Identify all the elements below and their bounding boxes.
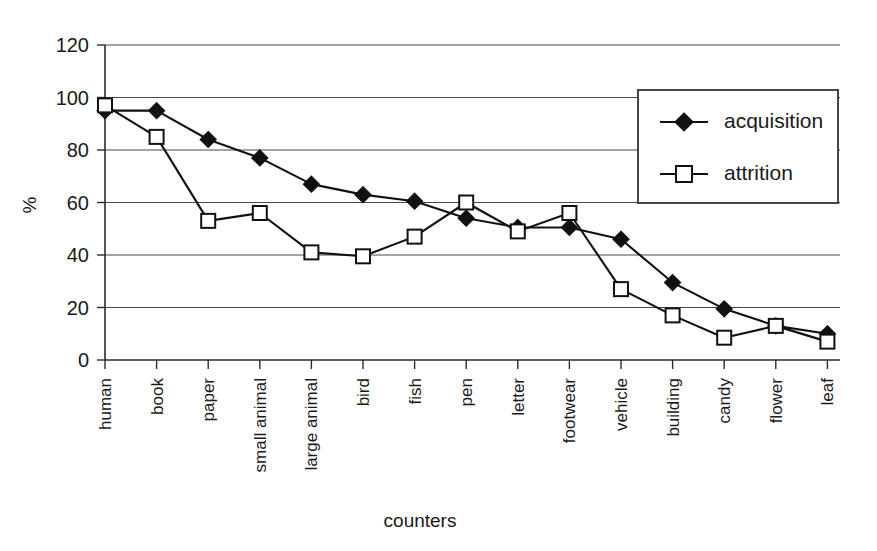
y-tick-label: 100 — [56, 87, 89, 109]
legend-box — [638, 90, 838, 203]
data-point-marker-square — [201, 214, 215, 228]
x-category-label: human — [96, 378, 115, 430]
x-category-label: leaf — [818, 378, 837, 406]
y-tick-label: 60 — [67, 192, 89, 214]
y-tick-label: 40 — [67, 244, 89, 266]
data-point-marker-diamond — [355, 187, 371, 203]
x-category-label: book — [148, 378, 167, 415]
y-axis-ticks: 020406080100120 — [56, 34, 105, 371]
y-tick-label: 120 — [56, 34, 89, 56]
data-point-marker-square — [98, 98, 112, 112]
x-axis-title: counters — [384, 510, 457, 531]
x-category-label: footwear — [560, 378, 579, 444]
x-category-label: letter — [509, 378, 528, 416]
x-axis-category-labels: humanbookpapersmall animallarge animalbi… — [96, 378, 837, 473]
data-point-marker-square — [459, 196, 473, 210]
x-category-label: candy — [715, 378, 734, 424]
line-chart: 020406080100120 humanbookpapersmall anim… — [0, 0, 877, 551]
y-tick-label: 0 — [78, 349, 89, 371]
x-category-label: fish — [406, 378, 425, 404]
x-category-label: large animal — [302, 378, 321, 471]
chart-legend: acquisitionattrition — [638, 90, 838, 203]
data-point-marker-diamond — [458, 210, 474, 226]
x-category-label: building — [664, 378, 683, 437]
data-point-marker-square — [769, 319, 783, 333]
data-point-marker-square — [717, 331, 731, 345]
data-point-marker-square — [253, 206, 267, 220]
data-point-marker-square — [820, 335, 834, 349]
data-point-marker-diamond — [716, 301, 732, 317]
data-point-marker-diamond — [149, 103, 165, 119]
data-point-marker-square — [676, 166, 692, 182]
data-point-marker-square — [511, 224, 525, 238]
y-tick-label: 80 — [67, 139, 89, 161]
x-category-label: bird — [354, 378, 373, 406]
data-point-marker-square — [356, 249, 370, 263]
y-tick-label: 20 — [67, 297, 89, 319]
x-category-label: vehicle — [612, 378, 631, 431]
data-point-marker-square — [408, 230, 422, 244]
chart-container: 020406080100120 humanbookpapersmall anim… — [0, 0, 877, 551]
data-point-marker-square — [562, 206, 576, 220]
data-point-marker-diamond — [407, 193, 423, 209]
data-point-marker-diamond — [200, 132, 216, 148]
legend-label-acquisition: acquisition — [724, 109, 823, 132]
x-axis-ticks — [105, 360, 827, 369]
x-category-label: pen — [457, 378, 476, 406]
legend-label-attrition: attrition — [724, 161, 793, 184]
data-point-marker-diamond — [303, 176, 319, 192]
data-point-marker-square — [614, 282, 628, 296]
data-point-marker-diamond — [252, 150, 268, 166]
data-point-marker-square — [304, 245, 318, 259]
y-axis-title: % — [19, 196, 40, 213]
data-point-marker-square — [666, 308, 680, 322]
x-category-label: flower — [767, 378, 786, 424]
x-category-label: small animal — [251, 378, 270, 472]
x-category-label: paper — [199, 378, 218, 422]
data-point-marker-square — [150, 130, 164, 144]
